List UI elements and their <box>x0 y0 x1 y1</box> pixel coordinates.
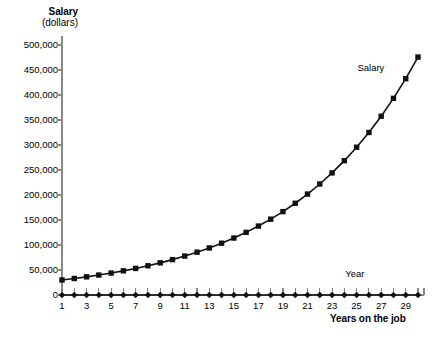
data-point-year <box>353 292 360 299</box>
data-point-year <box>83 292 90 299</box>
data-point-salary <box>329 170 334 175</box>
data-point-salary <box>317 181 322 186</box>
data-point-year <box>59 292 66 299</box>
data-point-year <box>120 292 127 299</box>
data-point-salary <box>403 76 408 81</box>
data-point-salary <box>84 274 89 279</box>
data-point-year <box>206 292 213 299</box>
data-series-layer <box>59 54 422 298</box>
data-point-year <box>316 292 323 299</box>
data-point-salary <box>354 145 359 150</box>
data-point-salary <box>96 272 101 277</box>
data-point-year <box>96 292 103 299</box>
data-point-salary <box>342 158 347 163</box>
data-point-salary <box>231 235 236 240</box>
data-point-year <box>71 292 78 299</box>
data-point-salary <box>133 266 138 271</box>
data-point-salary <box>268 216 273 221</box>
data-point-salary <box>219 241 224 246</box>
data-point-year <box>402 292 409 299</box>
data-point-year <box>378 292 385 299</box>
data-point-year <box>231 292 238 299</box>
data-point-year <box>157 292 164 299</box>
data-point-salary <box>256 223 261 228</box>
data-point-salary <box>293 201 298 206</box>
data-point-salary <box>59 277 64 282</box>
axis-lines <box>57 36 424 295</box>
data-point-salary <box>391 96 396 101</box>
data-point-year <box>218 292 225 299</box>
data-point-year <box>304 292 311 299</box>
data-point-salary <box>145 263 150 268</box>
data-point-salary <box>108 270 113 275</box>
data-point-salary <box>243 230 248 235</box>
series-line-salary <box>62 57 418 280</box>
data-point-salary <box>182 253 187 258</box>
data-point-year <box>366 292 373 299</box>
data-point-year <box>181 292 188 299</box>
data-point-year <box>132 292 139 299</box>
data-point-salary <box>207 245 212 250</box>
data-point-salary <box>415 54 420 59</box>
data-point-salary <box>158 260 163 265</box>
data-point-year <box>292 292 299 299</box>
data-point-year <box>341 292 348 299</box>
data-point-year <box>280 292 287 299</box>
data-point-salary <box>280 209 285 214</box>
salary-growth-chart: Salary (dollars) Years on the job 500,00… <box>0 0 434 339</box>
data-point-year <box>255 292 262 299</box>
data-point-salary <box>378 114 383 119</box>
plot-area <box>0 0 434 339</box>
data-point-salary <box>121 268 126 273</box>
data-point-year <box>145 292 152 299</box>
data-point-salary <box>170 257 175 262</box>
data-point-year <box>390 292 397 299</box>
data-point-year <box>243 292 250 299</box>
data-point-salary <box>72 276 77 281</box>
data-point-year <box>194 292 201 299</box>
data-point-salary <box>366 130 371 135</box>
data-point-year <box>415 292 422 299</box>
data-point-year <box>169 292 176 299</box>
data-point-salary <box>305 191 310 196</box>
data-point-salary <box>194 250 199 255</box>
data-point-year <box>329 292 336 299</box>
data-point-year <box>108 292 115 299</box>
data-point-year <box>267 292 274 299</box>
